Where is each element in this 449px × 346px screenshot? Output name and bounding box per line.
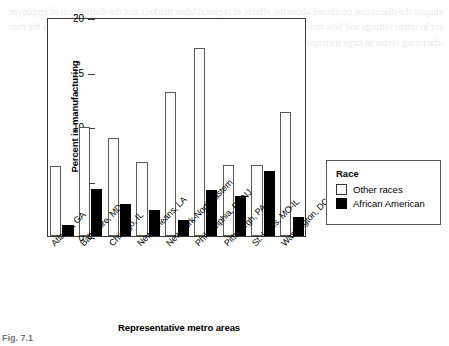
legend-swatch-african-american-icon — [336, 198, 347, 209]
legend-item-other-races: Other races — [336, 184, 440, 195]
bar-other-races — [251, 165, 262, 236]
figure-container: chapter the discussion continued about t… — [0, 0, 449, 346]
y-tick-label-15: 15 — [73, 68, 84, 79]
x-axis-title: Representative metro areas — [118, 322, 240, 333]
bar-other-races — [136, 162, 147, 236]
y-tick-20: 20 — [88, 19, 95, 20]
y-tick-label-20: 20 — [73, 13, 84, 24]
legend-label-other-races: Other races — [353, 184, 403, 195]
bar-other-races — [50, 166, 61, 236]
legend-label-african-american: African American — [353, 198, 425, 209]
legend-box: Race Other races African American — [326, 160, 441, 225]
legend-swatch-other-races-icon — [336, 184, 347, 195]
y-tick-15: 15 — [88, 74, 95, 75]
legend-item-african-american: African American — [336, 198, 440, 209]
legend-title: Race — [336, 168, 440, 179]
figure-caption: Fig. 7.1 — [2, 333, 33, 343]
